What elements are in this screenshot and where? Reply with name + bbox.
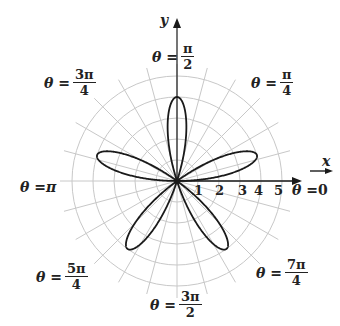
radial-tick-1: 1	[194, 183, 203, 198]
grid-radial-line	[147, 181, 177, 294]
angle-label-pi: θ = π	[20, 180, 56, 194]
radial-tick-3: 3	[238, 183, 247, 198]
angle-label-3pi-over-2: θ = 3π2	[150, 290, 202, 319]
y-axis-label: y	[160, 12, 168, 28]
grid-radial-line	[64, 151, 177, 181]
angle-label-pi-over-4: θ = π4	[251, 68, 293, 97]
y-axis-arrow-icon	[173, 18, 181, 28]
angle-label-5pi-over-4: θ = 5π4	[36, 262, 88, 291]
radial-tick-5: 5	[274, 183, 283, 198]
x-axis-label: x	[322, 153, 330, 169]
grid-radial-line	[76, 123, 177, 182]
axes	[173, 18, 333, 185]
grid-radial-line	[177, 98, 260, 181]
grid-radial-line	[119, 181, 178, 282]
grid-radial-line	[76, 181, 177, 240]
angle-label-7pi-over-4: θ = 7π4	[256, 258, 308, 287]
radial-tick-4: 4	[254, 183, 263, 198]
grid-radial-line	[177, 123, 278, 182]
grid-radial-line	[177, 181, 236, 282]
angle-label-pi-over-2: θ = π2	[152, 42, 194, 71]
grid-radial-line	[64, 181, 177, 211]
grid-radial-line	[177, 151, 290, 181]
angle-label-3pi-over-4: θ = 3π4	[44, 68, 96, 97]
radial-tick-2: 2	[215, 183, 224, 198]
angle-label-0: θ = 0	[292, 183, 328, 197]
grid-radial-line	[94, 98, 177, 181]
grid-radial-line	[177, 181, 278, 240]
